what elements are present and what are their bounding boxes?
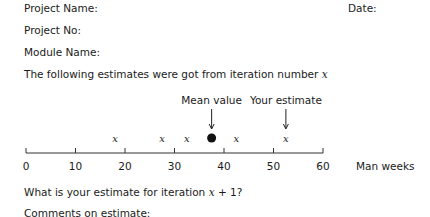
svg-text:20: 20: [118, 160, 131, 172]
axis-ticks: [26, 148, 323, 153]
estimate-marker: x: [234, 133, 240, 144]
estimate-marker: x: [184, 133, 190, 144]
svg-text:0: 0: [23, 160, 30, 172]
x-axis-label: Man weeks: [356, 160, 415, 172]
estimate-question: What is your estimate for iteration x + …: [24, 186, 242, 198]
annotation-label: Your estimate: [249, 94, 322, 106]
tick-labels: 0102030405060: [23, 160, 330, 172]
svg-text:10: 10: [69, 160, 82, 172]
comments-label: Comments on estimate:: [24, 207, 150, 217]
annotations: Mean valueYour estimate: [181, 94, 322, 129]
estimate-chart: 0102030405060 xxxxx Mean valueYour estim…: [0, 0, 430, 217]
question-prefix: What is your estimate for iteration: [24, 186, 209, 198]
estimate-marker: x: [283, 133, 289, 144]
estimate-marker: x: [112, 133, 118, 144]
data-markers: xxxxx: [112, 133, 289, 144]
annotation-label: Mean value: [181, 94, 242, 106]
svg-text:50: 50: [267, 160, 280, 172]
mean-marker: [207, 134, 216, 143]
svg-text:60: 60: [316, 160, 329, 172]
estimate-marker: x: [159, 133, 165, 144]
question-suffix: + 1?: [215, 186, 243, 198]
svg-text:30: 30: [168, 160, 181, 172]
svg-text:40: 40: [217, 160, 230, 172]
